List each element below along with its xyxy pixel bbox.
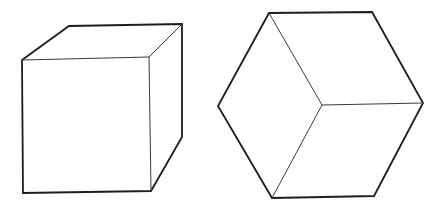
- center-to-bottom-left-edge: [272, 105, 322, 198]
- isometric-cube: [218, 12, 423, 198]
- isometric-cube-outline: [218, 12, 423, 198]
- front-face-top-edge: [22, 57, 149, 60]
- front-face-right-edge: [149, 57, 151, 191]
- center-to-top-left-edge: [269, 13, 322, 105]
- center-to-right-edge: [322, 103, 423, 105]
- oblique-cube: [22, 24, 182, 193]
- oblique-cube-outline: [22, 24, 182, 193]
- top-right-receding-edge: [149, 24, 182, 57]
- cubes-figure: [0, 0, 445, 208]
